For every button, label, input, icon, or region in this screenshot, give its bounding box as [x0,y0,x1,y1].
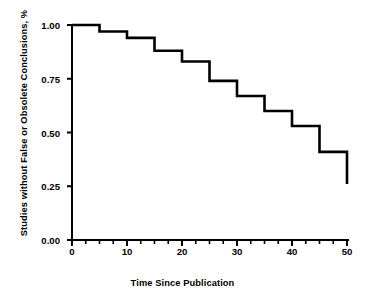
y-tick-label-0-75: 0.75 [26,73,60,84]
x-tick-label-0: 0 [57,246,87,257]
x-tick-label-10: 10 [112,246,142,257]
survival-step-curve [72,25,347,184]
y-tick-label-1-00: 1.00 [26,20,60,31]
axis-lines [72,25,349,240]
x-tick-label-20: 20 [167,246,197,257]
survival-curve-figure: Studies without False or Obsolete Conclu… [0,0,365,302]
x-tick-label-50: 50 [332,246,362,257]
x-tick-label-30: 30 [222,246,252,257]
x-axis-label: Time Since Publication [0,278,365,288]
y-tick-label-0-50: 0.50 [26,127,60,138]
y-tick-label-0-00: 0.00 [26,235,60,246]
x-tick-label-40: 40 [277,246,307,257]
y-tick-label-group: 1.00 0.75 0.50 0.25 0.00 [26,0,60,302]
y-tick-label-0-25: 0.25 [26,181,60,192]
